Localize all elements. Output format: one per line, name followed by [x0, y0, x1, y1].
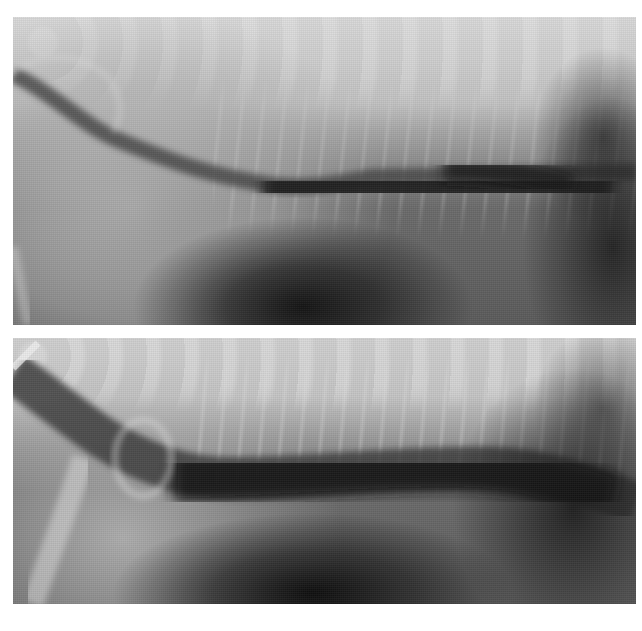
film-grain — [13, 338, 636, 604]
radiograph-bottom — [13, 338, 636, 604]
film-grain — [13, 17, 636, 325]
radiograph-top — [13, 17, 636, 325]
